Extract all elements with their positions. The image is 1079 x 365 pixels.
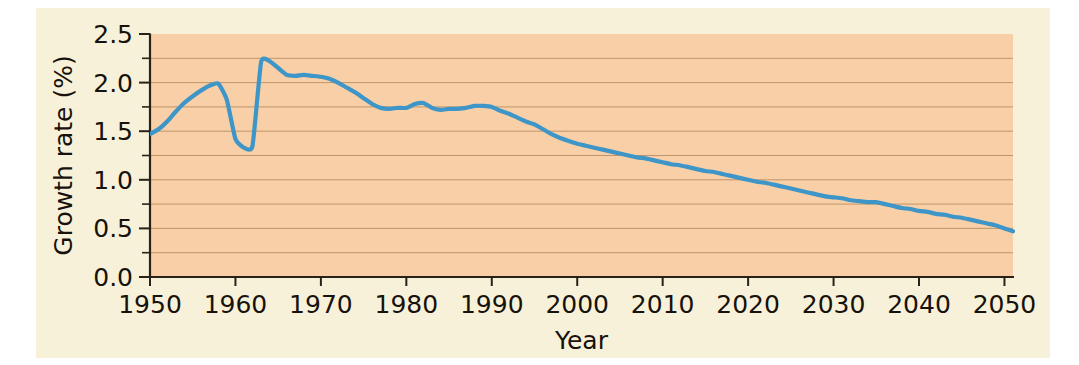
x-tick-label: 1980 — [375, 290, 439, 319]
x-tick-label: 2040 — [887, 290, 951, 319]
y-axis-title: Growth rate (%) — [49, 55, 78, 255]
x-tick-label: 2050 — [973, 290, 1037, 319]
x-tick-label: 2020 — [716, 290, 780, 319]
x-tick-label: 1990 — [460, 290, 524, 319]
y-tick-label: 0.0 — [93, 263, 133, 292]
x-tick-label: 1950 — [118, 290, 182, 319]
x-tick-label: 1960 — [204, 290, 268, 319]
x-tick-label: 2010 — [631, 290, 695, 319]
y-tick-label: 2.0 — [93, 69, 133, 98]
y-tick-label: 1.0 — [93, 166, 133, 195]
x-axis-title: Year — [554, 326, 609, 355]
x-tick-label: 1970 — [289, 290, 353, 319]
y-tick-label: 2.5 — [93, 20, 133, 49]
chart-figure: 0.00.51.01.52.02.51950196019701980199020… — [36, 8, 1050, 358]
x-tick-label: 2000 — [545, 290, 609, 319]
y-tick-label: 1.5 — [93, 117, 133, 146]
y-tick-label: 0.5 — [93, 214, 133, 243]
x-tick-label: 2030 — [802, 290, 866, 319]
population-growth-rate-line-chart: 0.00.51.01.52.02.51950196019701980199020… — [36, 8, 1050, 358]
